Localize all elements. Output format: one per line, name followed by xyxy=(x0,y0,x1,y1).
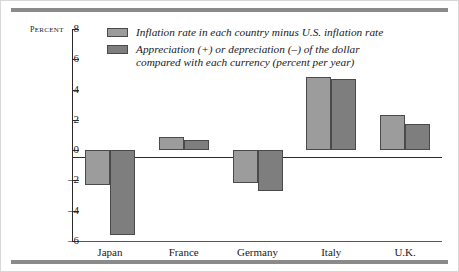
legend-swatch-series-2 xyxy=(107,45,128,54)
chart-figure: Percent 86420–2–4–6 JapanFranceGermanyIt… xyxy=(0,0,459,272)
x-axis-baseline xyxy=(72,241,442,242)
legend-item: Appreciation (+) or depreciation (–) of … xyxy=(107,43,437,70)
category-label: Italy xyxy=(291,246,371,258)
y-tick-mark xyxy=(72,180,79,181)
y-tick-mark xyxy=(72,120,79,121)
legend-label-series-1: Inflation rate in each country minus U.S… xyxy=(136,26,383,40)
category-label: U.K. xyxy=(365,246,445,258)
bar xyxy=(110,150,135,235)
y-tick-mark xyxy=(72,29,79,30)
bar xyxy=(331,79,356,150)
category-label: Japan xyxy=(70,246,150,258)
chart-legend: Inflation rate in each country minus U.S… xyxy=(107,26,437,73)
y-tick-mark xyxy=(72,59,79,60)
bar xyxy=(306,77,331,150)
category-label: France xyxy=(144,246,224,258)
bar xyxy=(380,115,405,151)
y-tick-mark xyxy=(72,211,79,212)
bar xyxy=(85,150,110,185)
legend-item: Inflation rate in each country minus U.S… xyxy=(107,26,437,40)
bar xyxy=(184,140,209,151)
y-tick-mark xyxy=(72,241,79,242)
y-tick-mark xyxy=(72,150,79,151)
bar xyxy=(233,150,258,183)
y-tick-mark xyxy=(72,90,79,91)
legend-label-series-2: Appreciation (+) or depreciation (–) of … xyxy=(136,43,360,70)
legend-swatch-series-1 xyxy=(107,28,128,37)
bar xyxy=(159,137,184,151)
bar xyxy=(258,150,283,191)
category-label: Germany xyxy=(218,246,298,258)
bar xyxy=(405,124,430,151)
